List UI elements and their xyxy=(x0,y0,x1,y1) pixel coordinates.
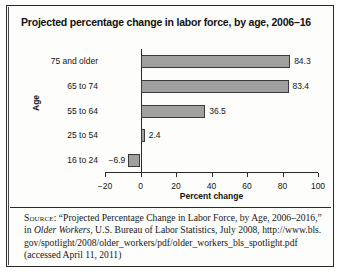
x-axis-tick-label: 100 xyxy=(311,181,325,191)
x-axis-tick-label: 60 xyxy=(242,181,251,191)
y-axis-category-label: 16 to 24 xyxy=(67,154,105,167)
x-axis-title: Percent change xyxy=(105,191,318,201)
x-axis-tick xyxy=(318,173,319,177)
y-axis-category-label: 55 to 64 xyxy=(67,105,105,118)
bar xyxy=(141,129,145,142)
x-axis-tick-label: 20 xyxy=(171,181,180,191)
bar-chart: Age Percent change −20020406080100−6.916… xyxy=(9,37,335,209)
y-axis-title: Age xyxy=(31,95,41,111)
bar-value-label: 2.4 xyxy=(149,129,161,142)
x-axis-tick-label: −20 xyxy=(98,181,112,191)
source-note: Source: “Projected Percentage Change in … xyxy=(24,212,322,262)
x-axis-tick xyxy=(283,173,284,177)
x-axis-tick-label: 80 xyxy=(278,181,287,191)
x-axis-tick xyxy=(105,173,106,177)
source-label: Source: xyxy=(24,212,56,223)
bar xyxy=(128,154,140,167)
x-axis-tick xyxy=(212,173,213,177)
x-axis-tick xyxy=(247,173,248,177)
page-title: Projected percentage change in labor for… xyxy=(21,16,321,28)
x-axis-tick xyxy=(141,173,142,177)
source-publication: Older Workers xyxy=(34,224,90,235)
source-text-3: (accessed April 11, 2011) xyxy=(24,249,121,260)
y-axis-category-label: 75 and older xyxy=(51,55,105,68)
bar xyxy=(141,80,289,93)
bar xyxy=(141,105,206,118)
bar-value-label: 83.4 xyxy=(293,80,310,93)
y-axis-category-label: 65 to 74 xyxy=(67,80,105,93)
bar-value-label: −6.9 xyxy=(108,154,125,167)
source-text-2: , U.S. Bureau of Labor Statistics, July … xyxy=(90,224,262,235)
plot-area: −20020406080100−6.916 to 242.425 to 5436… xyxy=(105,49,318,173)
x-axis-tick xyxy=(176,173,177,177)
bar-value-label: 36.5 xyxy=(209,105,226,118)
y-axis-category-label: 25 to 54 xyxy=(67,129,105,142)
bar xyxy=(141,55,291,68)
figure-inner-frame: Projected percentage change in labor for… xyxy=(8,7,332,265)
figure-frame: Projected percentage change in labor for… xyxy=(6,5,334,267)
bar-value-label: 84.3 xyxy=(294,55,311,68)
x-axis-tick-label: 40 xyxy=(207,181,216,191)
x-axis-tick-label: 0 xyxy=(138,181,143,191)
source-divider xyxy=(10,207,331,208)
